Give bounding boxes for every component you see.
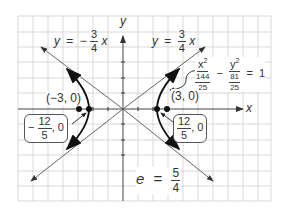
asym-neg-num: 3 — [90, 29, 98, 42]
eccentricity-label: e = 5 4 — [136, 167, 180, 194]
asym-neg-eq: = — [66, 34, 73, 48]
hyperbola-figure: y x y = − 3 4 x y = 3 4 x x2 144 25 — [0, 0, 287, 214]
left-vertex-fraction: 12 5 — [38, 116, 52, 141]
hyperbola-equation: x2 144 25 − y2 81 25 = 1 — [195, 57, 265, 92]
eq-minus: − — [216, 67, 222, 79]
asym-pos-fraction: 3 4 — [178, 29, 186, 54]
eccentricity-symbol: e — [136, 170, 144, 187]
left-vertex-num: 12 — [38, 116, 52, 129]
eq-y-den-den: 25 — [230, 83, 239, 92]
asym-neg-den: 4 — [91, 42, 97, 54]
eq-x-fraction: x2 144 25 — [195, 57, 210, 92]
eq-y-num: y2 — [229, 57, 240, 72]
left-vertex-point — [86, 106, 92, 112]
asym-pos-den: 4 — [179, 42, 185, 54]
left-vertex-den: 5 — [42, 129, 48, 141]
right-focus-point — [164, 106, 170, 112]
eccentricity-num: 5 — [171, 167, 180, 181]
asym-pos-eq: = — [164, 34, 171, 48]
right-vertex-point — [154, 106, 160, 112]
right-vertex-num: 12 — [177, 116, 191, 129]
asym-neg-x: x — [102, 34, 108, 48]
asym-neg-sign: − — [80, 34, 87, 48]
asym-neg-fraction: 3 4 — [90, 29, 98, 54]
right-vertex-label: 12 5 , 0 — [173, 114, 207, 143]
asym-pos-y: y — [152, 34, 158, 48]
asym-neg-y: y — [54, 34, 60, 48]
left-vertex-tail: , 0 — [52, 121, 64, 133]
eq-y-exp: 2 — [235, 57, 239, 64]
y-axis-label: y — [120, 14, 126, 28]
asymptote-positive-label: y = 3 4 x — [152, 29, 195, 54]
eccentricity-fraction: 5 4 — [171, 167, 180, 194]
left-vertex-leader — [72, 113, 86, 124]
right-vertex-den: 5 — [181, 129, 187, 141]
asym-pos-x: x — [189, 34, 195, 48]
left-focus-label: (−3, 0) — [46, 91, 81, 105]
asym-pos-num: 3 — [178, 29, 186, 42]
right-vertex-fraction: 12 5 — [177, 116, 191, 141]
eq-x-den-num: 144 — [195, 73, 210, 83]
x-axis-label: x — [246, 101, 252, 115]
eq-y-den: 81 25 — [229, 72, 240, 92]
eccentricity-equals: = — [154, 170, 163, 187]
left-vertex-label: − 12 5 , 0 — [24, 114, 68, 143]
right-focus-label: (3, 0) — [171, 89, 199, 103]
right-vertex-tail: , 0 — [191, 121, 203, 133]
eccentricity-den: 4 — [172, 181, 179, 194]
eq-y-den-num: 81 — [229, 73, 240, 83]
left-focus-point — [76, 106, 82, 112]
right-vertex-leader — [161, 113, 173, 122]
eq-rhs: 1 — [259, 67, 265, 79]
asymptote-negative-label: y = − 3 4 x — [54, 29, 108, 54]
eq-x-den-den: 25 — [198, 83, 207, 92]
eq-y-fraction: y2 81 25 — [229, 57, 240, 92]
eq-x-num: x2 — [197, 57, 208, 72]
eq-y-den-frac: 81 25 — [229, 73, 240, 92]
left-vertex-sign: − — [28, 121, 34, 133]
eq-equals: = — [246, 67, 252, 79]
eq-x-exp: 2 — [203, 57, 207, 64]
